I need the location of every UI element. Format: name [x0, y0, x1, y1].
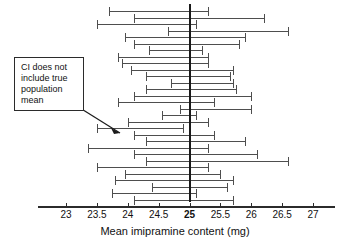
confidence-interval-figure: CI does not include true population mean… — [0, 0, 350, 247]
interval-line — [162, 115, 196, 116]
x-axis-tick — [313, 203, 314, 207]
interval-line — [118, 57, 208, 58]
interval-line — [134, 154, 258, 155]
x-axis-tick-label: 25.5 — [211, 209, 230, 220]
interval-line — [112, 193, 195, 194]
annotation-line-4: mean — [21, 95, 78, 106]
interval-line — [128, 122, 208, 123]
interval-line — [149, 50, 201, 51]
x-axis-tick — [190, 203, 191, 207]
x-axis-tick — [220, 203, 221, 207]
population-mean-reference-line — [189, 4, 191, 202]
interval-line — [134, 18, 264, 19]
x-axis-tick-label: 26.5 — [272, 209, 291, 220]
x-axis-tick-label: 25 — [184, 209, 195, 220]
x-axis: 2323.52424.52525.52626.527 Mean imiprami… — [0, 203, 350, 244]
x-axis-tick-label: 27 — [307, 209, 318, 220]
x-axis-tick — [251, 203, 252, 207]
interval-line — [97, 167, 208, 168]
annotation-line-1: CI does not — [21, 62, 78, 73]
x-axis-tick — [66, 203, 67, 207]
interval-line — [122, 63, 208, 64]
x-axis-line — [38, 206, 335, 208]
interval-line — [146, 89, 236, 90]
interval-line — [134, 135, 214, 136]
x-axis-tick — [159, 203, 160, 207]
interval-line — [125, 37, 245, 38]
x-axis-tick — [282, 203, 283, 207]
interval-line — [146, 141, 245, 142]
interval-line — [115, 180, 232, 181]
interval-line — [180, 109, 251, 110]
x-axis-tick-label: 26 — [246, 209, 257, 220]
x-axis-tick-label: 23.5 — [87, 209, 106, 220]
interval-line — [131, 70, 233, 71]
interval-line — [171, 83, 233, 84]
x-axis-tick-label: 24.5 — [149, 209, 168, 220]
interval-line — [118, 102, 214, 103]
x-axis-tick — [128, 203, 129, 207]
interval-line — [134, 44, 239, 45]
interval-line — [134, 200, 233, 201]
x-axis-tick-label: 23 — [60, 209, 71, 220]
interval-line — [97, 24, 196, 25]
annotation-line-3: population — [21, 84, 78, 95]
x-axis-tick — [97, 203, 98, 207]
x-axis-title: Mean imipramine content (mg) — [0, 225, 350, 237]
x-axis-tick-label: 24 — [122, 209, 133, 220]
interval-line — [134, 96, 251, 97]
annotation-line-2: include true — [21, 73, 78, 84]
interval-line — [109, 11, 208, 12]
annotation-leader-line — [80, 108, 124, 136]
annotation-callout-box: CI does not include true population mean — [14, 57, 84, 111]
interval-line — [146, 161, 288, 162]
interval-line — [125, 174, 221, 175]
interval-line — [168, 31, 288, 32]
